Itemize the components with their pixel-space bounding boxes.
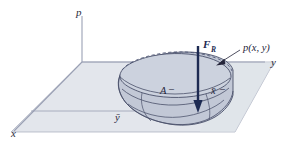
p-axis-label: p xyxy=(75,6,82,18)
area-dash: – xyxy=(168,83,175,94)
pressure-distribution-figure: p y x F R p(x, y) A – x̄ – ȳ xyxy=(0,0,292,144)
x-bar-label: x̄ xyxy=(210,85,216,96)
area-label: A xyxy=(159,85,167,96)
resultant-force-label: F xyxy=(202,38,211,50)
y-axis-label: y xyxy=(270,56,276,68)
pressure-function-label: p(x, y) xyxy=(242,42,270,54)
resultant-force-subscript-label: R xyxy=(210,45,216,54)
y-bar-label: ȳ xyxy=(114,112,120,123)
x-axis-label: x xyxy=(10,127,16,139)
x-bar-dash: – xyxy=(219,83,226,94)
figure-canvas: p y x F R p(x, y) A – x̄ – ȳ xyxy=(0,0,292,144)
